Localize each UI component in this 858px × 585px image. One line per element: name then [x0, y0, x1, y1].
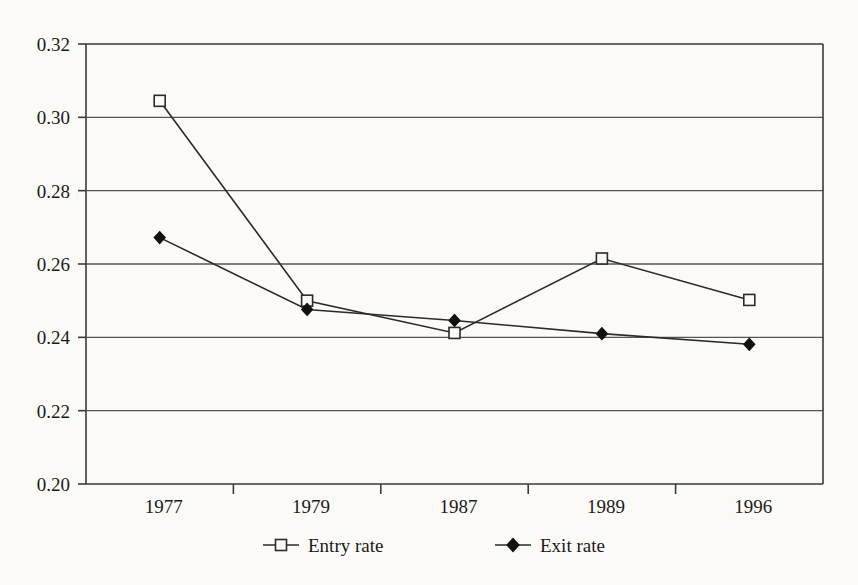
open-square-marker	[154, 95, 165, 106]
y-tick-marks	[78, 44, 86, 484]
x-axis-label: 1996	[734, 496, 772, 517]
y-axis-label: 0.26	[37, 254, 70, 275]
x-tick-marks	[233, 484, 675, 494]
chart-figure: 0.32 0.30 0.28 0.26 0.24 0.22 0.20 1977 …	[0, 0, 858, 585]
legend-label-entry-rate: Entry rate	[308, 535, 383, 556]
open-square-icon	[276, 540, 287, 551]
x-axis-label: 1979	[292, 496, 330, 517]
x-axis-label: 1987	[440, 496, 478, 517]
open-square-marker	[449, 327, 460, 338]
y-axis-label: 0.20	[37, 474, 70, 495]
x-axis-labels: 1977 1979 1987 1989 1996	[145, 496, 773, 517]
legend-item-exit-rate[interactable]: Exit rate	[495, 535, 605, 556]
open-square-marker	[744, 294, 755, 305]
x-axis-label: 1977	[145, 496, 183, 517]
legend-item-entry-rate[interactable]: Entry rate	[263, 535, 383, 556]
open-square-marker	[596, 253, 607, 264]
chart-legend: Entry rate Exit rate	[263, 535, 605, 556]
filled-diamond-icon	[507, 539, 519, 552]
legend-label-exit-rate: Exit rate	[540, 535, 605, 556]
x-axis-label: 1989	[587, 496, 625, 517]
y-axis-labels: 0.32 0.30 0.28 0.26 0.24 0.22 0.20	[37, 34, 71, 495]
y-axis-label: 0.22	[37, 401, 70, 422]
y-axis-label: 0.28	[37, 181, 70, 202]
y-axis-label: 0.24	[37, 327, 71, 348]
y-axis-label: 0.30	[37, 107, 70, 128]
line-chart: 0.32 0.30 0.28 0.26 0.24 0.22 0.20 1977 …	[0, 0, 858, 585]
y-axis-label: 0.32	[37, 34, 70, 55]
